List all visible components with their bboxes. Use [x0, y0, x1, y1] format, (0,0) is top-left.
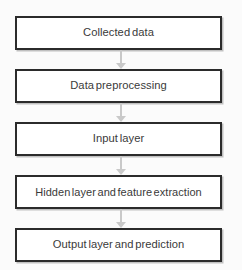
flow-connector-3 [120, 156, 122, 170]
flowchart-diagram: Collected data Data preprocessing Input … [0, 0, 242, 270]
flow-node-collected-data: Collected data [15, 16, 222, 50]
flow-node-label: Collected data [83, 27, 154, 38]
flow-node-hidden-layer: Hidden layer and feature extraction [15, 175, 222, 209]
flow-node-output-layer: Output layer and prediction [15, 228, 222, 262]
flow-connector-4 [120, 209, 122, 223]
flow-node-data-preprocessing: Data preprocessing [15, 69, 222, 103]
flow-node-label: Data preprocessing [70, 80, 167, 91]
flow-node-label: Input layer [93, 133, 144, 144]
flow-node-label: Hidden layer and feature extraction [35, 187, 202, 198]
flow-connector-2 [120, 103, 122, 117]
flow-node-label: Output layer and prediction [53, 239, 184, 250]
flow-connector-1 [120, 50, 122, 64]
flow-node-input-layer: Input layer [15, 122, 222, 156]
